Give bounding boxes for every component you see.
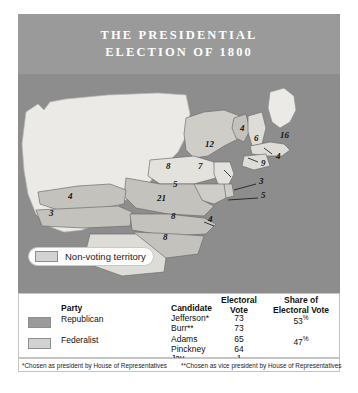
region-connecticut [242,154,270,170]
swatch-republican [28,317,51,328]
share-cell: 53% [266,314,336,326]
party-name: Republican [61,314,104,324]
footnote-one-text: Chosen as president by House of Represen… [25,362,167,369]
vote-label: 8 [166,161,171,171]
footnote-one: *Chosen as president by House of Represe… [22,362,167,369]
electoral-vote-cell: 73 73 [215,314,263,333]
share-value: 47 [293,337,302,347]
vote-label: 4 [67,191,73,201]
vote-label: 5 [261,190,266,200]
region-new-jersey [214,162,234,186]
candidate-cell: Jefferson* Burr** [171,314,209,333]
column-header-share: Share of Electoral Vote [266,296,336,315]
vote-label: 9 [261,158,266,168]
legend-swatch-nonvoting [35,251,58,262]
election-map: 4 6 16 12 4 9 8 7 3 5 5 21 4 3 8 4 8 4 [18,74,340,293]
vote-label: 4 [207,214,213,224]
infographic-figure: THE PRESIDENTIAL ELECTION OF 1800 [18,14,340,379]
vote-label: 5 [173,179,178,189]
vote-label: 4 [239,123,245,133]
vote-label: 16 [280,130,290,140]
footnote-two-text: Chosen as vice president by House of Rep… [186,362,342,369]
page-title-line-1: THE PRESIDENTIAL [101,27,258,44]
region-maine [268,88,296,128]
vote-label: 7 [198,161,203,171]
vote-label: 4 [275,151,281,161]
vote-label: 6 [254,133,259,143]
vote-label: 8 [163,232,168,242]
party-name: Federalist [61,335,98,345]
legend-label: Non-voting territory [65,251,146,262]
share-value: 53 [293,316,302,326]
map-legend: Non-voting territory [28,247,154,266]
share-unit: % [303,335,309,342]
results-table: Party Candidate Electoral Vote Share of … [18,293,340,358]
page-title-line-2: ELECTION OF 1800 [105,44,253,61]
vote-label: 3 [48,208,54,218]
vote-label: 3 [258,176,264,186]
share-cell: 47% [266,335,336,347]
column-header-party: Party [61,304,82,314]
footnote-two: **Chosen as vice president by House of R… [181,362,342,369]
vote-label: 8 [171,211,176,221]
title-banner: THE PRESIDENTIAL ELECTION OF 1800 [18,14,340,74]
swatch-federalist [28,338,51,349]
candidate-name: Burr** [171,324,209,334]
region-pennsylvania [148,156,216,184]
vote-label: 12 [205,139,215,149]
vote-label: 21 [156,193,166,203]
electoral-vote-value: 73 [215,324,263,334]
share-unit: % [303,314,309,321]
footnote-bar: *Chosen as president by House of Represe… [18,358,340,372]
